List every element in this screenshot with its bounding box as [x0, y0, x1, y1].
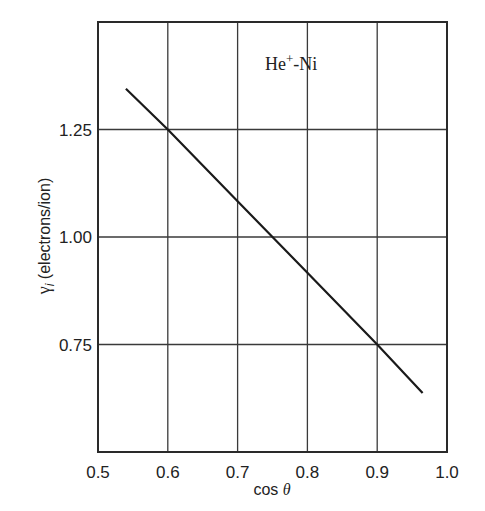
annotation-ion: He	[265, 54, 286, 74]
y-axis-title: γi (electrons/ion)	[34, 178, 57, 295]
x-tick-label: 1.0	[435, 463, 459, 482]
annotation-charge: +	[286, 51, 293, 66]
x-axis-title-prefix: cos	[253, 481, 282, 498]
x-tick-label: 0.5	[86, 463, 110, 482]
y-tick-label: 1.25	[59, 121, 92, 140]
annotation-target: -Ni	[293, 54, 317, 74]
y-tick-label: 0.75	[59, 336, 92, 355]
x-tick-label: 0.9	[365, 463, 389, 482]
x-tick-label: 0.8	[296, 463, 320, 482]
y-tick-labels: 0.751.001.25	[59, 121, 92, 355]
data-line	[126, 89, 423, 393]
y-axis-title-symbol: γ	[34, 286, 54, 295]
chart: 0.50.60.70.80.91.0 0.751.001.25 He+-Ni c…	[0, 0, 485, 511]
x-axis-title-symbol: θ	[283, 481, 291, 498]
y-axis-title-unit: (electrons/ion)	[36, 178, 53, 284]
x-axis-title: cos θ	[253, 481, 290, 498]
data-series	[126, 89, 423, 393]
series-annotation: He+-Ni	[265, 51, 317, 74]
x-tick-label: 0.7	[226, 463, 250, 482]
x-tick-label: 0.6	[156, 463, 180, 482]
y-tick-label: 1.00	[59, 228, 92, 247]
x-tick-labels: 0.50.60.70.80.91.0	[86, 463, 459, 482]
